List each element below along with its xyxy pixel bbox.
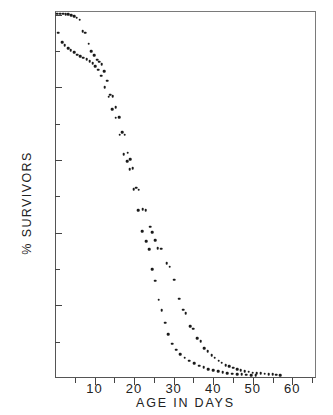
x-axis-tick-label: 20 [114,381,154,396]
y-axis-tick [55,305,62,306]
x-axis-tick-label: 10 [75,381,115,396]
y-axis-tick [55,15,62,16]
x-axis-tick-label: 60 [272,381,312,396]
x-axis-tick-label: 30 [154,381,194,396]
y-axis-tick [55,160,62,161]
x-axis-title: AGE IN DAYS [55,396,316,410]
plot-frame [55,11,316,378]
y-axis-tick-minor [55,124,60,125]
y-axis-tick [55,233,62,234]
y-axis-tick [55,87,62,88]
y-axis-tick-minor [55,51,60,52]
y-axis-tick-minor [55,342,60,343]
y-axis-title: % SURVIVORS [20,138,34,268]
survivorship-figure: 20406080100102030405060 % SURVIVORS AGE … [0,0,333,415]
y-axis-tick-minor [55,196,60,197]
x-axis-tick-label: 50 [233,381,273,396]
x-axis-tick-label: 40 [193,381,233,396]
y-axis-tick-minor [55,269,60,270]
